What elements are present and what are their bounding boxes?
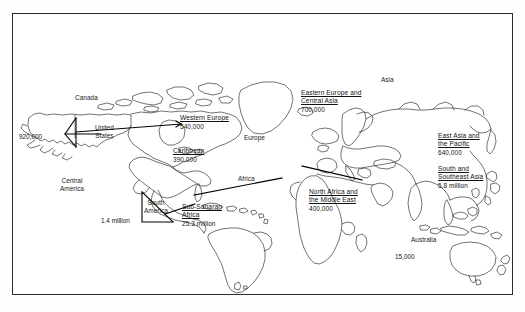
callout-western-europe: Western Europe 540,000 xyxy=(180,114,229,131)
geo-label-central-america: Central America xyxy=(60,177,84,193)
callout-east-asia-pacific: East Asia and the Pacific 640,000 xyxy=(438,132,480,157)
callout-caribbean-title: Caribbean xyxy=(173,147,204,155)
geo-label-asia: Asia xyxy=(381,76,394,84)
callout-north-africa-title-line1: North Africa and xyxy=(309,188,358,196)
coastlines xyxy=(21,82,510,293)
callout-south-asia-value: 5.8 million xyxy=(438,182,483,190)
world-map-figure: Canada United States Central America Sou… xyxy=(12,13,513,295)
geo-label-south-america-line1: South xyxy=(147,199,164,206)
callout-south-southeast-asia: South and Southeast Asia 5.8 million xyxy=(438,165,483,190)
callout-eastern-europe-title-line2: Central Asia xyxy=(301,97,361,105)
callout-eastern-europe-title-line1: Eastern Europe and xyxy=(301,89,361,97)
callout-east-asia-title-line2: the Pacific xyxy=(438,140,480,148)
callout-caribbean-value: 390,000 xyxy=(173,156,204,164)
geo-label-united-states-line2: States xyxy=(95,132,113,139)
callout-sub-saharan-title-line1: Sub-Saharan xyxy=(182,203,222,211)
callout-eastern-europe-central-asia: Eastern Europe and Central Asia 700,000 xyxy=(301,89,361,114)
callout-sub-saharan-africa: Sub-Saharan Africa 25.3 million xyxy=(182,203,222,228)
callout-north-africa-title-line2: the Middle East xyxy=(309,196,358,204)
geo-label-central-america-line2: America xyxy=(60,185,84,192)
callout-caribbean: Caribbean 390,000 xyxy=(173,147,204,164)
callout-western-europe-value: 540,000 xyxy=(180,123,229,131)
callout-north-africa-middle-east: North Africa and the Middle East 400,000 xyxy=(309,188,358,213)
callout-australia-value: 15,000 xyxy=(395,253,415,260)
callout-sub-saharan-value: 25.3 million xyxy=(182,220,222,228)
geo-label-australia: Australia xyxy=(411,236,436,244)
geo-label-united-states: United States xyxy=(95,124,114,140)
callout-east-asia-value: 640,000 xyxy=(438,149,480,157)
geo-label-central-america-line1: Central xyxy=(61,177,82,184)
callout-south-asia-title-line1: South and xyxy=(438,165,483,173)
callout-western-europe-title: Western Europe xyxy=(180,114,229,122)
callout-sub-saharan-title-line2: Africa xyxy=(182,211,222,219)
callout-south-asia-title-line2: Southeast Asia xyxy=(438,173,483,181)
geo-label-south-america: South America xyxy=(144,199,168,215)
geo-label-united-states-line1: United xyxy=(95,124,114,131)
callout-north-america-value: 920,000 xyxy=(19,133,42,140)
geo-label-europe: Europe xyxy=(244,134,265,142)
callout-eastern-europe-value: 700,000 xyxy=(301,106,361,114)
geo-label-africa: Africa xyxy=(238,175,255,183)
callout-east-asia-title-line1: East Asia and xyxy=(438,132,480,140)
callout-latin-america-value: 1.4 million xyxy=(101,217,130,224)
geo-label-south-america-line2: America xyxy=(144,207,168,214)
geo-label-canada: Canada xyxy=(75,94,98,102)
callout-north-africa-value: 400,000 xyxy=(309,205,358,213)
